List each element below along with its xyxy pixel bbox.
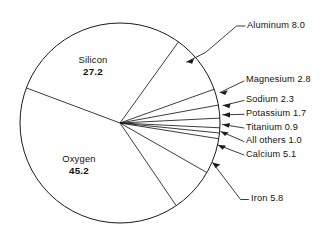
- inner-label-silicon: Silicon 27.2: [56, 54, 130, 78]
- leader-arrow-titanium: [223, 123, 231, 128]
- inner-label-oxygen: Oxygen 45.2: [42, 153, 116, 177]
- callout-label-titanium: Titanium 0.9: [246, 123, 298, 132]
- inner-label-silicon-name: Silicon: [56, 54, 130, 66]
- inner-label-oxygen-value: 45.2: [42, 165, 116, 177]
- leader-arrow-potassium: [223, 112, 231, 117]
- slice-boundary-oxygen-silicon: [27, 88, 121, 123]
- pie-callout-leaders: [187, 26, 249, 200]
- slice-boundary-aluminum-magnesium: [120, 89, 215, 123]
- pie-chart-figure: Silicon 27.2 Oxygen 45.2 Aluminum 8.0 Ma…: [0, 0, 327, 236]
- leader-line-magnesium: [220, 81, 244, 93]
- callout-label-magnesium: Magnesium 2.8: [246, 75, 311, 84]
- callout-label-calcium: Calcium 5.1: [246, 150, 296, 159]
- leader-arrow-sodium: [223, 103, 231, 108]
- leader-arrow-allothers: [221, 132, 229, 137]
- callout-label-iron: Iron 5.8: [251, 194, 283, 203]
- callout-label-allothers: All others 1.0: [246, 136, 302, 145]
- inner-label-oxygen-name: Oxygen: [42, 153, 116, 165]
- leader-line-iron: [213, 163, 249, 200]
- callout-label-sodium: Sodium 2.3: [246, 95, 294, 104]
- leader-arrow-iron: [213, 163, 221, 169]
- slice-boundary-iron-oxygen: [120, 123, 176, 206]
- inner-label-silicon-value: 27.2: [56, 66, 130, 78]
- callout-label-potassium: Potassium 1.7: [246, 109, 306, 118]
- callout-label-aluminum: Aluminum 8.0: [247, 21, 305, 30]
